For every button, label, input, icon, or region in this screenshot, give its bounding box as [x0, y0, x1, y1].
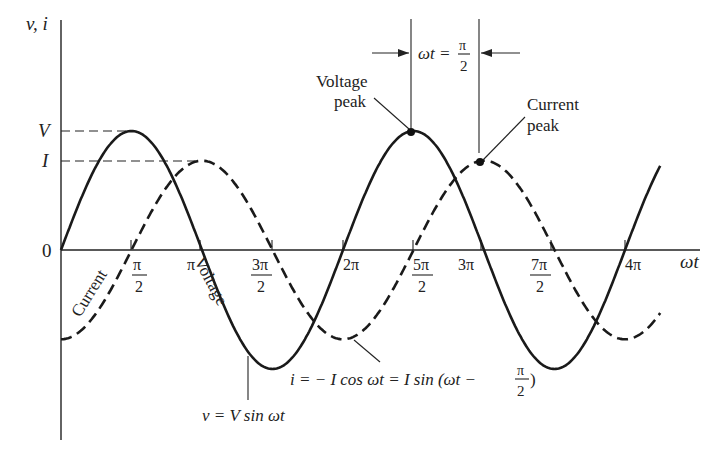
tick-label-den: 2 — [135, 278, 143, 295]
y-axis-label: v, i — [26, 13, 48, 34]
svg-text:peak: peak — [527, 116, 560, 135]
tick-label-den: 2 — [536, 278, 544, 295]
tick-label-num: 5π — [413, 256, 429, 273]
svg-text:Current: Current — [527, 95, 579, 114]
svg-text:Voltage: Voltage — [316, 72, 368, 91]
voltage-peak-leader — [374, 98, 409, 129]
phase-shift-label: ωt = π 2 — [418, 38, 470, 74]
svg-text:π: π — [517, 363, 524, 378]
tick-label-num: 7π — [531, 256, 547, 273]
tick-label-num: 3π — [458, 256, 474, 273]
current-curve-label: Current — [67, 266, 111, 320]
phase-arrow-left-icon — [372, 49, 409, 57]
svg-text:ωt =: ωt = — [418, 44, 450, 63]
svg-text:π: π — [459, 38, 466, 53]
current-equation-leader — [354, 340, 380, 362]
tick-label-num: 4π — [625, 256, 641, 273]
svg-text:i = − I cos ωt = I sin (ωt −: i = − I cos ωt = I sin (ωt − — [290, 370, 476, 389]
svg-text:peak: peak — [334, 92, 367, 111]
voltage-equation: v = V sin ωt — [202, 406, 286, 425]
ac-voltage-current-phase-diagram: v, i ωt 0 V I π 2 π 3π 2 2π 5π 2 3π — [0, 0, 727, 468]
current-peak-dot — [476, 158, 484, 166]
current-peak-label: Current peak — [527, 95, 579, 135]
svg-text:): ) — [530, 370, 536, 389]
voltage-peak-dot — [407, 128, 415, 136]
tick-label-num: 2π — [343, 256, 359, 273]
voltage-peak-label: Voltage peak — [316, 72, 368, 111]
origin-label: 0 — [42, 240, 52, 261]
current-equation: i = − I cos ωt = I sin (ωt − π 2 ) — [290, 363, 536, 399]
tick-label-num: 3π — [252, 256, 268, 273]
i-level-label: I — [41, 150, 50, 171]
svg-text:2: 2 — [460, 58, 468, 74]
tick-label-num: π — [133, 256, 141, 273]
phase-arrow-right-icon — [481, 49, 520, 57]
tick-label-den: 2 — [257, 278, 265, 295]
x-axis-label: ωt — [680, 251, 699, 272]
current-peak-leader — [483, 117, 525, 160]
tick-label-den: 2 — [418, 278, 426, 295]
voltage-curve-label: Voltage — [190, 254, 231, 309]
v-level-label: V — [38, 120, 52, 141]
svg-text:2: 2 — [517, 383, 525, 399]
